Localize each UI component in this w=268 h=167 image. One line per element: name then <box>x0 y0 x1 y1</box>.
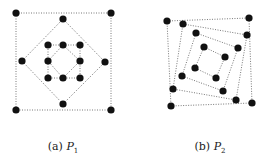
vertex-point <box>191 64 198 71</box>
dotted-polygon <box>22 19 105 104</box>
vertex-point <box>44 41 51 48</box>
figure-canvas <box>0 0 268 167</box>
dotted-polygon <box>182 33 238 91</box>
vertex-point <box>76 41 83 48</box>
vertex-point <box>59 41 66 48</box>
caption-a-prefix: (a) <box>48 140 63 153</box>
vertex-point <box>76 74 83 81</box>
vertex-point <box>76 57 83 64</box>
vertex-point <box>59 100 66 107</box>
dotted-polygon <box>195 47 225 78</box>
caption-b-prefix: (b) <box>195 140 211 153</box>
dotted-polygon <box>167 18 252 106</box>
vertex-point <box>59 15 66 22</box>
vertex-point <box>101 58 108 65</box>
vertex-point <box>192 29 199 36</box>
vertex-point <box>163 17 170 24</box>
dotted-polygon <box>48 45 80 78</box>
vertex-point <box>219 87 226 94</box>
vertex-point <box>169 85 176 92</box>
dotted-polygon <box>16 13 111 110</box>
vertex-point <box>221 53 228 60</box>
vertex-point <box>44 57 51 64</box>
vertex-point <box>12 9 19 16</box>
vertex-point <box>234 44 241 51</box>
vertex-point <box>179 20 186 27</box>
vertex-point <box>212 74 219 81</box>
caption-a: (a) P1 <box>48 140 79 155</box>
vertex-point <box>178 72 185 79</box>
vertex-point <box>200 43 207 50</box>
caption-a-var: P <box>66 140 73 153</box>
vertex-point <box>12 106 19 113</box>
caption-b-var: P <box>214 140 221 153</box>
panel-a <box>12 9 114 113</box>
vertex-point <box>44 74 51 81</box>
vertex-point <box>243 31 250 38</box>
vertex-point <box>59 74 66 81</box>
vertex-point <box>167 102 174 109</box>
dotted-polygon <box>173 24 247 100</box>
caption-a-sub: 1 <box>74 147 78 155</box>
vertex-point <box>232 96 239 103</box>
vertex-point <box>245 14 252 21</box>
vertex-point <box>248 99 255 106</box>
panel-b <box>163 14 255 109</box>
vertex-point <box>107 106 114 113</box>
vertex-point <box>18 57 25 64</box>
caption-b: (b) P2 <box>195 140 226 155</box>
caption-b-sub: 2 <box>221 147 225 155</box>
dotted-polygon <box>48 45 80 78</box>
vertex-point <box>107 9 114 16</box>
